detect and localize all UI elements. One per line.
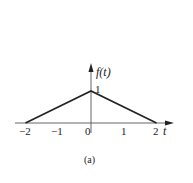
tick-label-minus-2: −2: [19, 125, 31, 137]
x-axis-arrow-icon: [165, 121, 174, 126]
x-axis-label: t: [163, 124, 167, 138]
tick-label-2: 2: [153, 125, 159, 137]
y-axis-arrow-icon: [89, 63, 94, 72]
tick-label-1: 1: [121, 125, 127, 137]
tick-label-minus-1: −1: [51, 125, 63, 137]
peak-value-label: 1: [95, 83, 101, 95]
figure-caption: (a): [84, 154, 95, 166]
figure: f(t) 1 t −2 −1 0 1 2 (a): [0, 0, 193, 183]
triangle-pulse-plot: f(t) 1 t −2 −1 0 1 2 (a): [0, 0, 193, 183]
y-axis-label: f(t): [96, 65, 111, 79]
tick-label-0: 0: [85, 125, 91, 137]
